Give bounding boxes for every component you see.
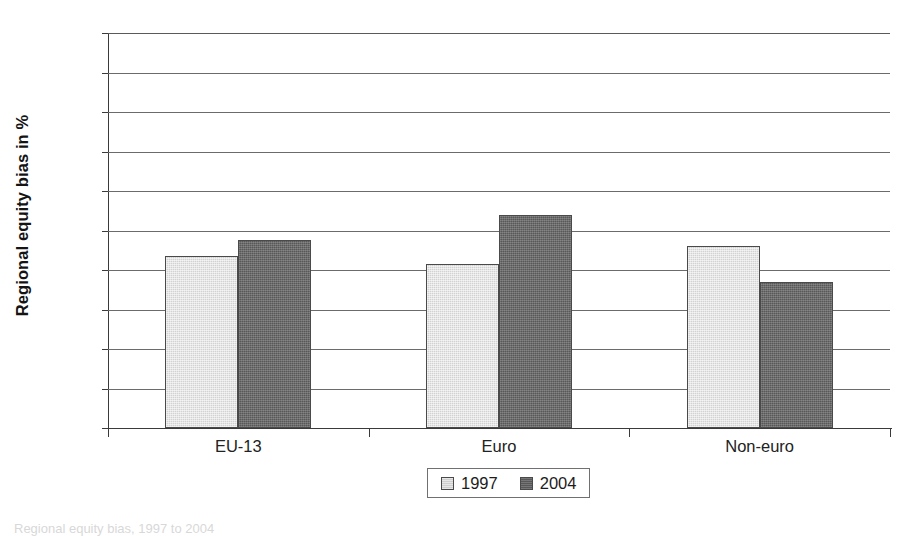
x-tick-mark: [629, 428, 630, 437]
y-tick-mark: [102, 231, 108, 232]
gridline: [108, 33, 890, 34]
plot-area: 0%10%20%30%40%50%60%70%80%90%100% EU-13E…: [108, 33, 890, 428]
gridline: [108, 191, 890, 192]
x-category-label-eu-13: EU-13: [118, 437, 358, 456]
y-tick-mark: [102, 270, 108, 271]
y-tick-mark: [102, 389, 108, 390]
y-tick-mark: [102, 349, 108, 350]
bar-euro-1997: [426, 264, 499, 428]
bar-non-euro-2004: [760, 282, 833, 428]
y-axis-title-text: Regional equity bias in %: [14, 114, 33, 315]
y-tick-mark: [102, 112, 108, 113]
x-tick-mark: [890, 428, 891, 437]
legend-swatch-2004: [520, 477, 533, 490]
y-axis-title: Regional equity bias in %: [0, 0, 46, 430]
y-tick-mark: [102, 73, 108, 74]
y-tick-mark: [102, 310, 108, 311]
bar-non-euro-1997: [687, 246, 760, 428]
y-tick-mark: [102, 191, 108, 192]
legend-swatch-1997: [441, 477, 454, 490]
bar-eu-13-1997: [165, 256, 238, 428]
legend-label-2004: 2004: [540, 474, 577, 493]
x-tick-mark: [108, 428, 109, 437]
gridline: [108, 152, 890, 153]
gridline: [108, 73, 890, 74]
x-tick-mark: [369, 428, 370, 437]
bar-euro-2004: [499, 215, 572, 428]
x-category-label-non-euro: Non-euro: [640, 437, 880, 456]
gridline: [108, 112, 890, 113]
chart-legend: 19972004: [427, 468, 590, 498]
x-axis-line: [108, 428, 892, 429]
figure-caption: Regional equity bias, 1997 to 2004: [14, 521, 214, 536]
legend-entry-1997: 1997: [441, 474, 498, 493]
legend-entry-2004: 2004: [520, 474, 577, 493]
y-tick-mark: [102, 152, 108, 153]
bar-eu-13-2004: [238, 240, 311, 428]
legend-label-1997: 1997: [461, 474, 498, 493]
x-category-label-euro: Euro: [379, 437, 619, 456]
y-tick-mark: [102, 33, 108, 34]
